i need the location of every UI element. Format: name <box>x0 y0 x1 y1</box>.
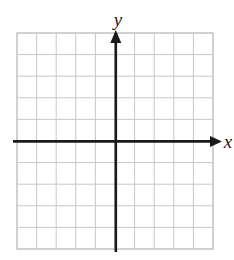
x-axis-label: x <box>223 131 233 152</box>
coordinate-plane-figure: x y <box>0 0 234 260</box>
coordinate-plane-canvas: x y <box>0 0 234 260</box>
y-axis-label: y <box>112 9 123 30</box>
